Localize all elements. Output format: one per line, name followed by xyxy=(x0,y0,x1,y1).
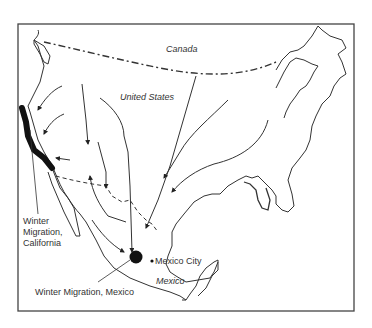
florida xyxy=(244,182,270,210)
label-winter-california-1: Winter xyxy=(23,216,49,227)
label-canada: Canada xyxy=(166,44,198,55)
mexico-city-dot xyxy=(150,259,153,262)
label-mexico: Mexico xyxy=(156,276,185,287)
label-united-states: United States xyxy=(120,92,174,103)
us-canada-border xyxy=(44,42,276,74)
label-winter-mexico: Winter Migration, Mexico xyxy=(35,287,134,298)
northeast-coast xyxy=(276,26,318,118)
label-winter-california-3: California xyxy=(23,238,61,249)
label-mexico-city: Mexico City xyxy=(155,256,202,267)
label-winter-california-2: Migration, xyxy=(23,227,63,238)
leader-mexico xyxy=(98,260,130,282)
map-frame xyxy=(18,24,354,311)
overwinter-mexico-dot xyxy=(130,251,143,264)
